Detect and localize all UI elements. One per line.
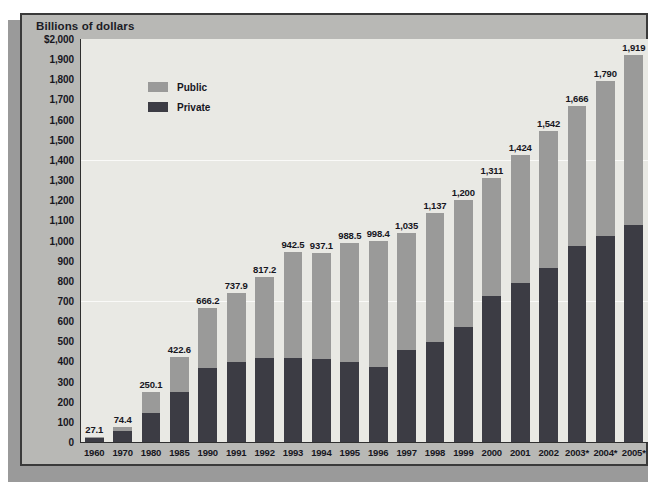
bar-value-label: 74.4 <box>97 414 148 425</box>
bar-segment-private <box>426 342 445 442</box>
bar-segment-public <box>397 233 416 350</box>
bar-segment-public <box>284 252 303 358</box>
bar-value-label: 666.2 <box>182 295 233 306</box>
bar-segment-public <box>113 427 132 431</box>
chart-figure: Billions of dollars $2,0001,9001,8001,70… <box>0 0 653 487</box>
y-axis-tick: 1,000 <box>49 235 74 246</box>
bar-value-label: 1,790 <box>580 68 631 79</box>
y-axis-tick: 0 <box>69 437 74 448</box>
bar-segment-private <box>113 431 132 442</box>
y-axis-tick: 200 <box>58 396 74 407</box>
bar-segment-public <box>198 308 217 368</box>
bar-value-label: 1,666 <box>551 93 602 104</box>
y-axis-tick: 900 <box>58 255 74 266</box>
bar-segment-public <box>482 178 501 296</box>
bar-stack <box>539 131 558 442</box>
bar-stack <box>198 308 217 442</box>
bar-value-label: 1,919 <box>608 42 653 53</box>
bar-segment-public <box>426 213 445 342</box>
bar-stack <box>227 293 246 442</box>
bar-stack <box>340 243 359 442</box>
bar-segment-public <box>568 106 587 245</box>
unit-header-band: Billions of dollars <box>22 15 646 39</box>
bar-segment-public <box>85 437 104 438</box>
bar-segment-private <box>340 362 359 442</box>
y-axis-tick: 700 <box>58 295 74 306</box>
bar-stack <box>369 241 388 442</box>
bar-stack <box>624 55 643 442</box>
bar-value-label: 1,542 <box>523 118 574 129</box>
bar-value-label: 817.2 <box>239 264 290 275</box>
x-axis-line <box>80 442 648 443</box>
y-axis-tick: 1,600 <box>49 114 74 125</box>
bar-segment-public <box>624 55 643 225</box>
bar-segment-public <box>312 253 331 359</box>
bar-value-label: 27.1 <box>69 424 120 435</box>
legend-item-public: Public <box>148 79 210 95</box>
gridline <box>80 160 648 161</box>
y-axis-tick: 600 <box>58 316 74 327</box>
bar-stack <box>284 252 303 442</box>
bar-stack <box>426 213 445 442</box>
legend-label-private: Private <box>177 102 210 113</box>
bar-stack <box>255 277 274 442</box>
bar-value-label: 737.9 <box>211 280 262 291</box>
bar-segment-private <box>624 225 643 442</box>
bar-stack <box>142 392 161 442</box>
x-axis-labels: 1960197019801985199019911992199319941995… <box>80 445 648 465</box>
y-axis-tick: 1,800 <box>49 74 74 85</box>
bar-value-label: 250.1 <box>125 379 176 390</box>
bar-segment-private <box>539 268 558 442</box>
bar-segment-private <box>568 246 587 442</box>
legend-item-private: Private <box>148 99 210 115</box>
y-axis-tick: 1,500 <box>49 134 74 145</box>
y-axis-tick: 800 <box>58 275 74 286</box>
legend-swatch-public-icon <box>148 82 168 92</box>
bar-segment-public <box>369 241 388 367</box>
bar-value-label: 1,035 <box>381 220 432 231</box>
bar-value-label: 1,424 <box>495 142 546 153</box>
bar-segment-private <box>482 296 501 442</box>
bar-segment-public <box>596 81 615 236</box>
bar-segment-private <box>255 358 274 442</box>
bar-stack <box>568 106 587 442</box>
y-axis-tick: 1,900 <box>49 54 74 65</box>
y-axis-tick: 1,100 <box>49 215 74 226</box>
legend-label-public: Public <box>177 82 207 93</box>
bar-value-label: 1,311 <box>466 165 517 176</box>
bar-segment-public <box>340 243 359 362</box>
bar-segment-public <box>255 277 274 358</box>
bar-segment-private <box>198 368 217 442</box>
y-axis-labels: $2,0001,9001,8001,7001,6001,5001,4001,30… <box>22 39 80 468</box>
bar-segment-public <box>170 357 189 392</box>
bar-stack <box>482 178 501 442</box>
y-axis-tick: 300 <box>58 376 74 387</box>
bar-stack <box>454 200 473 442</box>
y-axis-tick: 1,400 <box>49 154 74 165</box>
bar-segment-private <box>511 283 530 442</box>
bar-segment-public <box>539 131 558 268</box>
bar-segment-private <box>397 350 416 442</box>
legend-swatch-private-icon <box>148 102 168 112</box>
y-axis-tick: 400 <box>58 356 74 367</box>
bar-segment-private <box>596 236 615 442</box>
y-axis-tick: $2,000 <box>44 34 74 45</box>
bar-segment-private <box>142 413 161 442</box>
bar-value-label: 1,137 <box>409 200 460 211</box>
bar-stack <box>511 155 530 442</box>
plot-area: Public Private 27.174.4250.1422.6666.273… <box>80 39 648 442</box>
bar-segment-private <box>227 362 246 442</box>
bar-stack <box>312 253 331 442</box>
y-axis-line <box>80 39 81 443</box>
bar-segment-private <box>369 367 388 442</box>
y-axis-tick: 1,300 <box>49 175 74 186</box>
bar-value-label: 937.1 <box>296 240 347 251</box>
chart-panel: Billions of dollars $2,0001,9001,8001,70… <box>20 13 648 466</box>
x-axis-tick: 2005* <box>610 447 653 458</box>
y-axis-tick: 1,700 <box>49 94 74 105</box>
bar-segment-private <box>284 358 303 442</box>
y-axis-tick: 1,200 <box>49 195 74 206</box>
y-axis-tick: 500 <box>58 336 74 347</box>
bar-segment-private <box>312 359 331 442</box>
chart-legend: Public Private <box>148 79 210 119</box>
